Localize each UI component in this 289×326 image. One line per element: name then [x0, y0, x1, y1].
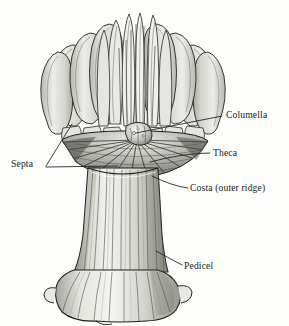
septum-blade: [41, 52, 74, 134]
label-pedicel: Pedicel: [184, 261, 213, 271]
septum-blade: [193, 52, 226, 134]
coral-anatomy-figure: Columella Theca Costa (outer ridge) Sept…: [0, 0, 289, 326]
label-theca: Theca: [213, 148, 237, 158]
label-columella: Columella: [226, 110, 267, 120]
coral-illustration: [0, 0, 289, 326]
septum-blade: [122, 14, 135, 126]
columella: [125, 122, 152, 145]
pedicel: [44, 268, 192, 326]
label-septa: Septa: [11, 159, 33, 169]
label-costa: Costa (outer ridge): [190, 183, 265, 193]
theca-and-costae: [74, 165, 172, 275]
